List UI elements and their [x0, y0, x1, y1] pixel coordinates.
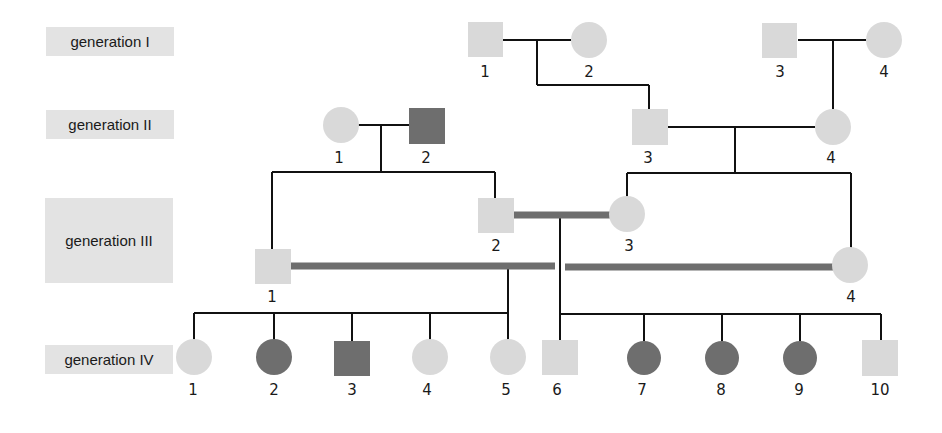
label-IV-2: 2 [269, 381, 279, 399]
label-IV-10: 10 [870, 381, 889, 399]
pedigree-diagram: 1 2 3 4 1 2 3 4 1 2 3 4 1 2 3 4 5 6 7 8 … [0, 0, 942, 433]
label-III-4: 4 [846, 288, 856, 306]
label-IV-4: 4 [422, 381, 432, 399]
female-II-1 [323, 107, 359, 143]
male-IV-6 [542, 340, 578, 375]
male-I-1 [468, 22, 503, 57]
descent-lines [194, 40, 881, 341]
label-III-1: 1 [267, 288, 277, 306]
label-IV-9: 9 [794, 381, 804, 399]
female-IV-9-affected [783, 341, 817, 375]
female-III-3 [609, 196, 645, 232]
label-I-1: 1 [480, 63, 490, 81]
label-I-4: 4 [879, 63, 889, 81]
female-IV-5 [490, 339, 526, 375]
label-I-3: 3 [775, 63, 785, 81]
label-IV-7: 7 [637, 381, 647, 399]
label-IV-8: 8 [716, 381, 726, 399]
label-IV-5: 5 [501, 381, 511, 399]
label-II-2: 2 [421, 149, 431, 167]
male-II-3 [632, 109, 668, 145]
female-IV-7-affected [627, 341, 661, 375]
male-IV-3-affected [334, 341, 370, 376]
male-III-2 [478, 198, 514, 233]
label-III-3: 3 [624, 237, 634, 255]
female-II-4 [815, 109, 851, 145]
male-III-1 [255, 249, 291, 284]
label-I-2: 2 [584, 63, 594, 81]
label-II-4: 4 [826, 149, 836, 167]
male-II-2-affected [409, 108, 445, 144]
female-IV-8-affected [705, 341, 739, 375]
female-I-4 [866, 22, 902, 58]
male-IV-10 [862, 340, 898, 376]
label-II-1: 1 [334, 149, 344, 167]
label-III-2: 2 [491, 237, 501, 255]
female-I-2 [571, 22, 607, 58]
label-II-3: 3 [643, 149, 653, 167]
label-IV-1: 1 [188, 381, 198, 399]
female-III-4 [832, 247, 868, 283]
male-I-3 [762, 23, 797, 58]
female-IV-2-affected [256, 339, 292, 375]
female-IV-4 [412, 339, 448, 375]
label-IV-3: 3 [347, 381, 357, 399]
consanguineous-mating-lines [290, 215, 833, 267]
label-IV-6: 6 [552, 381, 562, 399]
female-IV-1 [176, 339, 212, 375]
